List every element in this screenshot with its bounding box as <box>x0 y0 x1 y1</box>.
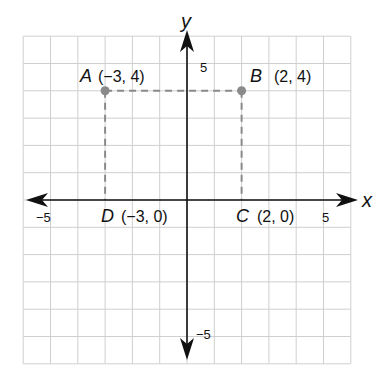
x-tick-neg5: −5 <box>36 210 51 225</box>
point-A-name: A <box>79 66 92 86</box>
point-A-coords: (−3, 4) <box>98 68 145 85</box>
coordinate-plane: x y −5 5 5 −5 A (−3, 4) B (2, 4) C (2, 0… <box>0 0 386 386</box>
y-tick-5: 5 <box>200 60 207 75</box>
point-B-coords: (2, 4) <box>274 68 311 85</box>
y-axis-label: y <box>179 10 192 32</box>
point-A-dot <box>101 86 110 95</box>
point-C-name: C <box>236 206 250 226</box>
x-tick-5: 5 <box>322 210 329 225</box>
point-B-dot <box>237 86 246 95</box>
x-axis-label: x <box>361 189 373 211</box>
point-D-coords: (−3, 0) <box>121 208 168 225</box>
point-D-name: D <box>101 206 114 226</box>
point-B-name: B <box>250 66 262 86</box>
y-tick-neg5: −5 <box>196 327 211 342</box>
point-C-coords: (2, 0) <box>257 208 294 225</box>
